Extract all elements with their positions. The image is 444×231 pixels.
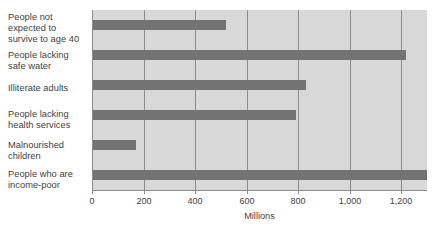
- category-label-line: People not: [8, 12, 86, 23]
- x-axis-tick-label: 1,200: [390, 196, 413, 206]
- x-axis-tick-label: 1,000: [339, 196, 362, 206]
- x-axis-tick-label: 400: [187, 196, 202, 206]
- category-label-line: health services: [8, 120, 86, 131]
- bar: [92, 110, 296, 120]
- x-axis-tick: [247, 190, 248, 194]
- category-label-line: People lacking: [8, 50, 86, 61]
- plot-area: [92, 10, 427, 190]
- category-label-people-who-are-income-poor: People who are income-poor: [8, 169, 86, 191]
- gridline: [195, 10, 196, 190]
- bar: [92, 20, 226, 30]
- gridline: [350, 10, 351, 190]
- y-axis-line: [92, 10, 93, 191]
- gridline: [298, 10, 299, 190]
- category-label-people-lacking-safe-water: People lacking safe water: [8, 50, 86, 72]
- x-axis-tick: [298, 190, 299, 194]
- x-axis-tick: [350, 190, 351, 194]
- category-label-malnourished-children: Malnourished children: [8, 140, 86, 162]
- category-label-line: income-poor: [8, 180, 86, 191]
- category-label-people-not-expected-to-survive-to-age-40: People not expected to survive to age 40: [8, 12, 86, 46]
- bar-chart: People not expected to survive to age 40…: [0, 0, 444, 231]
- category-label-line: People lacking: [8, 109, 86, 120]
- category-label-line: People who are: [8, 169, 86, 180]
- x-axis-tick: [401, 190, 402, 194]
- category-label-illiterate-adults: Illiterate adults: [8, 83, 86, 94]
- category-label-line: children: [8, 151, 86, 162]
- category-label-column: People not expected to survive to age 40…: [0, 10, 86, 190]
- x-axis-tick: [92, 190, 93, 194]
- bar: [92, 50, 406, 60]
- bar: [92, 170, 427, 180]
- x-axis-line: [92, 190, 427, 191]
- category-label-line: Malnourished: [8, 140, 86, 151]
- bar: [92, 80, 306, 90]
- category-label-line: expected to: [8, 23, 86, 34]
- x-axis-tick-label: 800: [290, 196, 305, 206]
- category-label-people-lacking-health-services: People lacking health services: [8, 109, 86, 131]
- x-axis-tick: [144, 190, 145, 194]
- x-axis-tick-label: 0: [89, 196, 94, 206]
- gridline: [401, 10, 402, 190]
- category-label-line: safe water: [8, 61, 86, 72]
- category-label-line: survive to age 40: [8, 34, 86, 45]
- category-label-line: Illiterate adults: [8, 83, 86, 94]
- x-axis-tick-label: 600: [239, 196, 254, 206]
- gridline: [144, 10, 145, 190]
- x-axis-tick-label: 200: [136, 196, 151, 206]
- bar: [92, 140, 136, 150]
- x-axis-tick: [195, 190, 196, 194]
- gridline: [247, 10, 248, 190]
- x-axis-title: Millions: [92, 211, 427, 221]
